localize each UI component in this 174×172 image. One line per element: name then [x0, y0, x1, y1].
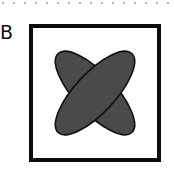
crossed-ellipses-figure: [0, 0, 174, 172]
